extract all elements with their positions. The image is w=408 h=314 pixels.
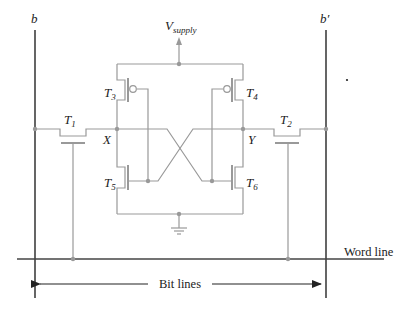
t2-sub: 2	[287, 119, 292, 129]
t5-sub: 5	[111, 182, 116, 192]
t2-label: T2	[280, 111, 292, 129]
t4-label: T4	[246, 84, 258, 102]
t1-label: T1	[64, 111, 76, 129]
t6-label: T6	[246, 174, 258, 192]
node-x-label: X	[103, 133, 111, 146]
bit-lines-label: Bit lines	[159, 278, 201, 291]
t5-label: T5	[104, 174, 116, 192]
t3-sub: 3	[111, 92, 116, 102]
sram-cell-diagram: b b′ Vsupply T1 T2 T3 T4 T5 T6 X Y Word …	[0, 0, 408, 314]
t6-sub: 6	[253, 182, 258, 192]
vsupply-main: V	[165, 18, 173, 33]
stray-speck	[346, 79, 348, 81]
vsupply-sub: supply	[173, 25, 197, 35]
node-y-label: Y	[248, 133, 255, 146]
bit-line-b-prime-label: b′	[320, 12, 329, 25]
word-line-label: Word line	[344, 246, 393, 259]
vsupply-label: Vsupply	[165, 17, 196, 35]
vsupply-arrow-icon	[176, 37, 182, 45]
t4-sub: 4	[253, 92, 258, 102]
ground-icon	[171, 228, 187, 234]
cell-wiring	[35, 42, 326, 259]
t1-sub: 1	[71, 119, 76, 129]
circuit-schematic	[0, 0, 408, 314]
t4-gate-bubble	[224, 86, 231, 93]
t3-gate-bubble	[130, 86, 137, 93]
t3-label: T3	[104, 84, 116, 102]
bit-line-b-label: b	[31, 12, 38, 25]
